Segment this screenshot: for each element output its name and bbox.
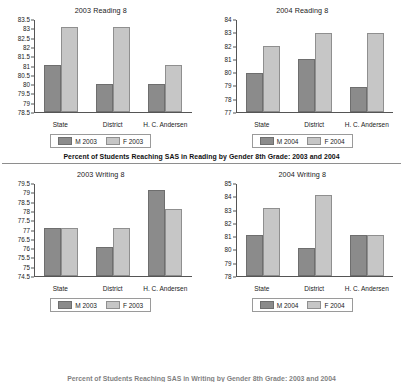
legend-swatch-male bbox=[58, 137, 72, 145]
bar-female[interactable] bbox=[113, 228, 130, 276]
legend-item[interactable]: F 2003 bbox=[106, 301, 143, 309]
figure-caption-writing: Percent of Students Reaching SAS in Writ… bbox=[0, 375, 403, 382]
writing-charts-row: 2003 Writing 8 74.57575.57676.57777.5787… bbox=[0, 164, 403, 313]
legend-label: F 2004 bbox=[324, 302, 344, 309]
x-tick-label: H. C. Andersen bbox=[341, 121, 394, 128]
y-tick-label: 76.5 bbox=[18, 237, 30, 243]
y-tick-label: 83 bbox=[224, 207, 231, 213]
bar-female[interactable] bbox=[61, 228, 78, 276]
y-tick-label: 83 bbox=[224, 30, 231, 36]
bar-male[interactable] bbox=[350, 87, 367, 112]
y-tick-label: 81.5 bbox=[18, 54, 30, 60]
bar-male[interactable] bbox=[148, 190, 165, 276]
bar-male[interactable] bbox=[350, 235, 367, 276]
legend-swatch-female bbox=[307, 301, 321, 309]
chart-legend: M 2004F 2004 bbox=[252, 298, 353, 312]
y-tick-label: 78 bbox=[224, 274, 231, 280]
bar-male[interactable] bbox=[246, 73, 263, 112]
plot-area: 74.57575.57676.57777.57878.57979.5 State… bbox=[4, 182, 196, 295]
y-tick-label: 78 bbox=[224, 97, 231, 103]
legend-swatch-female bbox=[106, 137, 120, 145]
y-tick-label: 82 bbox=[224, 43, 231, 49]
bar-male[interactable] bbox=[246, 235, 263, 276]
x-axis-labels: StateDistrictH. C. Andersen bbox=[236, 285, 394, 292]
bar-groups bbox=[35, 184, 192, 276]
legend-swatch-female bbox=[307, 137, 321, 145]
chart-title: 2004 Reading 8 bbox=[202, 6, 403, 15]
legend-item[interactable]: M 2004 bbox=[260, 301, 299, 309]
bar-female[interactable] bbox=[61, 27, 78, 112]
y-tick-label: 78 bbox=[23, 209, 30, 215]
legend-item[interactable]: M 2003 bbox=[58, 137, 97, 145]
y-tick-label: 82.5 bbox=[18, 35, 30, 41]
y-tick-label: 83 bbox=[23, 26, 30, 32]
legend-holder: M 2004F 2004 bbox=[202, 131, 403, 149]
chart-reading-2003: 2003 Reading 8 78.57979.58080.58181.5828… bbox=[0, 0, 202, 149]
legend-holder: M 2003F 2003 bbox=[0, 295, 202, 313]
legend-holder: M 2004F 2004 bbox=[202, 295, 403, 313]
bar-male[interactable] bbox=[44, 65, 61, 112]
y-tick-label: 79 bbox=[224, 261, 231, 267]
bar-female[interactable] bbox=[315, 195, 332, 276]
legend-item[interactable]: M 2004 bbox=[260, 137, 299, 145]
chart-reading-2004: 2004 Reading 8 7778798081828384 StateDis… bbox=[202, 0, 403, 149]
bar-group bbox=[139, 20, 191, 112]
legend-item[interactable]: M 2003 bbox=[58, 301, 97, 309]
figure-caption-reading: Percent of Students Reaching SAS in Read… bbox=[0, 149, 403, 163]
bar-female[interactable] bbox=[263, 208, 280, 276]
bar-groups bbox=[237, 184, 394, 276]
y-tick-label: 79 bbox=[224, 83, 231, 89]
bar-female[interactable] bbox=[165, 65, 182, 112]
legend-item[interactable]: F 2004 bbox=[307, 301, 344, 309]
legend-swatch-male bbox=[260, 137, 274, 145]
bar-male[interactable] bbox=[298, 59, 315, 112]
bar-group bbox=[87, 20, 139, 112]
bar-male[interactable] bbox=[298, 248, 315, 276]
x-tick-label: District bbox=[288, 121, 341, 128]
legend-swatch-male bbox=[58, 301, 72, 309]
y-tick-label: 81 bbox=[23, 63, 30, 69]
plot-area: 78.57979.58080.58181.58282.58383.5 State… bbox=[4, 18, 196, 131]
bar-female[interactable] bbox=[263, 46, 280, 112]
y-tick-label: 81 bbox=[224, 234, 231, 240]
bar-male[interactable] bbox=[96, 247, 113, 276]
bar-group bbox=[35, 20, 87, 112]
plot-bars bbox=[34, 20, 192, 113]
bar-female[interactable] bbox=[367, 235, 384, 276]
bar-female[interactable] bbox=[367, 33, 384, 113]
bar-male[interactable] bbox=[148, 84, 165, 112]
y-tick-label: 84 bbox=[224, 17, 231, 23]
y-tick-label: 75.5 bbox=[18, 255, 30, 261]
x-tick-label: District bbox=[87, 121, 140, 128]
y-axis: 78.57979.58080.58181.58282.58383.5 bbox=[4, 20, 34, 113]
plot-bars bbox=[236, 184, 394, 277]
y-tick-label: 75 bbox=[23, 265, 30, 271]
x-axis-labels: StateDistrictH. C. Andersen bbox=[34, 285, 192, 292]
bar-male[interactable] bbox=[96, 84, 113, 112]
legend-holder: M 2003F 2003 bbox=[0, 131, 202, 149]
bar-group bbox=[289, 20, 341, 112]
bar-group bbox=[289, 184, 341, 276]
x-tick-label: H. C. Andersen bbox=[139, 285, 192, 292]
bar-female[interactable] bbox=[113, 27, 130, 112]
legend-item[interactable]: F 2004 bbox=[307, 137, 344, 145]
y-tick-label: 77.5 bbox=[18, 218, 30, 224]
x-axis-labels: StateDistrictH. C. Andersen bbox=[34, 121, 192, 128]
bar-female[interactable] bbox=[315, 33, 332, 113]
bar-groups bbox=[237, 20, 394, 112]
bar-female[interactable] bbox=[165, 209, 182, 276]
y-tick-label: 74.5 bbox=[18, 274, 30, 280]
x-tick-label: District bbox=[87, 285, 140, 292]
legend-swatch-male bbox=[260, 301, 274, 309]
middle-caption-band: Percent of Students Reaching SAS in Read… bbox=[0, 149, 403, 164]
bar-male[interactable] bbox=[44, 228, 61, 276]
legend-item[interactable]: F 2003 bbox=[106, 137, 143, 145]
y-tick-label: 78.5 bbox=[18, 199, 30, 205]
bar-groups bbox=[35, 20, 192, 112]
chart-writing-2004: 2004 Writing 8 7879808182838485 StateDis… bbox=[202, 164, 403, 313]
y-tick-label: 80.5 bbox=[18, 73, 30, 79]
bar-group bbox=[35, 184, 87, 276]
x-tick-label: State bbox=[236, 121, 289, 128]
bar-group bbox=[237, 184, 289, 276]
y-tick-label: 82 bbox=[224, 221, 231, 227]
